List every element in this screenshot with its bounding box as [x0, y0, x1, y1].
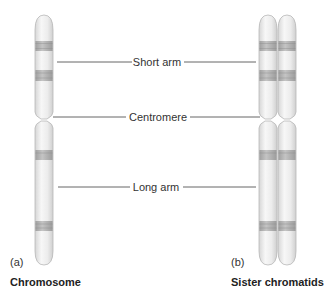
panel-b-caption: Sister chromatids: [231, 276, 324, 288]
panel-a-caption: Chromosome: [10, 276, 81, 288]
sister-chromatid-left: [259, 15, 277, 265]
panel-b-letter: (b): [231, 256, 244, 268]
leader-lines: [53, 62, 260, 187]
chromosome-a: [35, 15, 53, 265]
long-arm-label: Long arm: [133, 181, 179, 193]
centromere-label: Centromere: [129, 111, 187, 123]
chromosome-diagram: [0, 0, 333, 296]
sister-chromatid-right: [278, 15, 296, 265]
short-arm-label: Short arm: [133, 56, 181, 68]
panel-a-letter: (a): [10, 256, 23, 268]
